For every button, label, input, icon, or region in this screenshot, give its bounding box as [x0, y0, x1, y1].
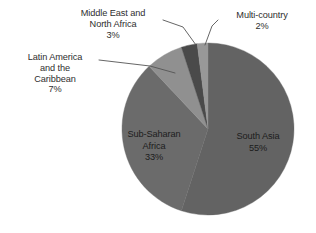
slice-name-line-1: South Asia — [237, 131, 280, 141]
slice-percent-sub-saharan-africa: 33% — [112, 152, 196, 164]
callout-name-line-1: Middle East and — [81, 8, 145, 18]
slice-label-south-asia: South Asia 55% — [218, 131, 298, 154]
callout-name-line-1: Multi-country — [236, 10, 287, 20]
callout-label-multi-country: Multi-country 2% — [213, 10, 311, 32]
callout-percent-multi-country: 2% — [213, 21, 311, 32]
callout-name-line-3: Caribbean — [34, 74, 76, 84]
callout-percent-latin-america: 7% — [6, 84, 104, 95]
slice-name-line-2: Africa — [143, 141, 166, 151]
slice-label-sub-saharan-africa: Sub-Saharan Africa 33% — [112, 129, 196, 164]
callout-label-latin-america: Latin America and the Caribbean 7% — [6, 52, 104, 95]
slice-percent-south-asia: 55% — [218, 143, 298, 155]
callout-name-line-2: North Africa — [90, 19, 137, 29]
slice-name-line-1: Sub-Saharan — [127, 129, 180, 139]
callout-percent-middle-east-north-africa: 3% — [57, 30, 169, 41]
pie-chart-figure: Middle East and North Africa 3% Multi-co… — [0, 0, 316, 233]
callout-name-line-1: Latin America — [28, 52, 82, 62]
callout-name-line-2: and the — [40, 63, 70, 73]
callout-label-middle-east-north-africa: Middle East and North Africa 3% — [57, 8, 169, 40]
